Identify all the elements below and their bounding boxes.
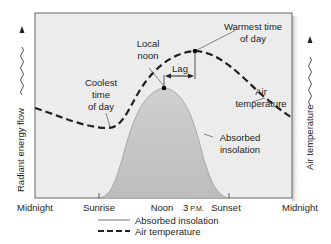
legend-air-temperature: Air temperature — [135, 226, 200, 237]
x-label-noon: Noon — [151, 202, 174, 213]
x-label-3pm: 3P.M. — [183, 202, 204, 213]
y-axis-left-label: Radiant energy flow — [15, 108, 26, 192]
absorbed-insolation-label: Absorbed — [220, 132, 261, 143]
wavy-arrow-right-icon — [309, 57, 312, 105]
lag-label: Lag — [172, 63, 188, 74]
svg-text:noon: noon — [137, 50, 158, 61]
svg-text:of day: of day — [240, 33, 266, 44]
y-axis-right-label: Air temperature — [304, 105, 315, 170]
legend-absorbed-insolation: Absorbed insolation — [135, 215, 218, 226]
svg-text:temperature: temperature — [235, 98, 286, 109]
daily-radiation-temperature-diagram: Local noon Coolest time of day Warmest t… — [0, 0, 331, 244]
legend: Absorbed insolation Air temperature — [98, 215, 218, 237]
air-temperature-label: Air — [255, 86, 267, 97]
x-label-midnight-end: Midnight — [282, 202, 318, 213]
warmest-time-label: Warmest time — [224, 21, 282, 32]
wavy-arrow-left-icon — [21, 47, 24, 95]
svg-text:of day: of day — [88, 101, 114, 112]
x-label-sunrise: Sunrise — [83, 202, 115, 213]
svg-text:time: time — [92, 89, 110, 100]
x-label-sunset: Sunset — [211, 202, 241, 213]
x-label-midnight-start: Midnight — [17, 202, 53, 213]
svg-text:insolation: insolation — [220, 144, 260, 155]
coolest-time-label: Coolest — [85, 77, 118, 88]
local-noon-label: Local — [137, 38, 160, 49]
